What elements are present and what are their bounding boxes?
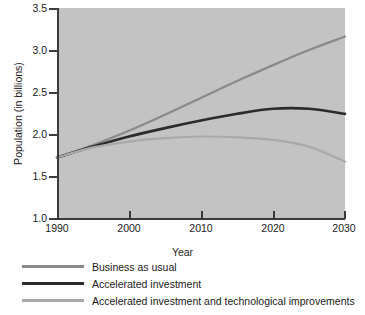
legend-label-business-as-usual: Business as usual <box>92 261 177 273</box>
y-axis-title: Population (in billions) <box>13 34 24 194</box>
x-tick-mark-1990 <box>57 211 59 219</box>
y-tick-mark-2.0 <box>49 134 58 136</box>
y-tick-label-3.0: 3.0 <box>32 45 47 56</box>
x-tick-mark-2030 <box>344 211 346 219</box>
legend-label-accelerated-investment: Accelerated investment <box>92 278 201 290</box>
x-axis-title: Year <box>0 247 365 258</box>
legend-swatch-accelerated-investment <box>22 282 84 285</box>
legend-label-accelerated-investment-tech: Accelerated investment and technological… <box>92 295 355 307</box>
x-tick-mark-2020 <box>273 211 275 219</box>
x-tick-mark-2010 <box>201 211 203 219</box>
y-tick-mark-3.0 <box>49 50 58 52</box>
x-tick-label-1990: 1990 <box>45 223 68 234</box>
y-tick-label-1.5: 1.5 <box>32 171 47 182</box>
series-line-1 <box>57 108 345 157</box>
x-tick-label-2000: 2000 <box>117 223 140 234</box>
legend-item-business-as-usual: Business as usual <box>22 258 362 275</box>
population-projection-chart: 3.5 3.0 2.5 2.0 1.5 1.0 1990 2000 2010 2… <box>0 0 365 315</box>
y-tick-label-2.5: 2.5 <box>32 87 47 98</box>
y-tick-mark-2.5 <box>49 92 58 94</box>
chart-legend: Business as usual Accelerated investment… <box>22 258 362 309</box>
x-tick-label-2010: 2010 <box>189 223 212 234</box>
legend-item-accelerated-investment: Accelerated investment <box>22 275 362 292</box>
y-tick-mark-3.5 <box>49 8 58 10</box>
legend-swatch-accelerated-investment-tech <box>22 299 84 302</box>
series-line-0 <box>57 37 345 158</box>
series-line-2 <box>57 136 345 161</box>
y-tick-label-2.0: 2.0 <box>32 129 47 140</box>
x-tick-mark-2000 <box>129 211 131 219</box>
x-tick-label-2030: 2030 <box>332 223 355 234</box>
legend-swatch-business-as-usual <box>22 265 84 268</box>
y-tick-label-3.5: 3.5 <box>32 3 47 14</box>
y-axis-line <box>57 8 59 219</box>
y-tick-mark-1.5 <box>49 176 58 178</box>
legend-item-accelerated-investment-tech: Accelerated investment and technological… <box>22 292 362 309</box>
x-tick-label-2020: 2020 <box>261 223 284 234</box>
